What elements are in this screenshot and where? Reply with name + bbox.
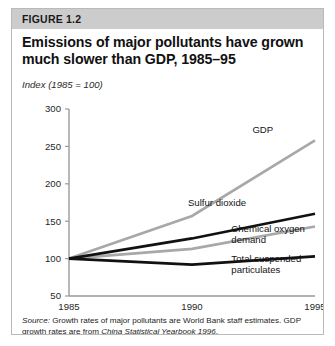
source-publication-title: China Statistical Yearbook 1996 <box>101 327 216 335</box>
y-tick-label: 200 <box>45 178 61 189</box>
figure-title: Emissions of major pollutants have grown… <box>22 34 318 69</box>
line-chart-svg: 50100150200250300 198519901995 GDPSulfur… <box>12 97 324 311</box>
figure-number-label: FIGURE 1.2 <box>22 13 81 25</box>
figure-header-band: FIGURE 1.2 <box>12 9 323 29</box>
source-note: Source: Growth rates of major pollutants… <box>22 316 314 335</box>
x-tick-label: 1995 <box>304 301 324 311</box>
chart-plot-area: 50100150200250300 198519901995 GDPSulfur… <box>12 97 324 311</box>
series-label-sulfur-dioxide: Sulfur dioxide <box>188 197 246 208</box>
series-label-total-suspended-particulates: Total suspendedparticulates <box>231 253 301 275</box>
y-tick-label: 250 <box>45 141 61 152</box>
series-label-chemical-oxygen-demand: Chemical oxygendemand <box>231 223 305 245</box>
series-labels-group: GDPSulfur dioxideChemical oxygendemandTo… <box>188 124 305 275</box>
x-tick-label: 1990 <box>181 301 202 311</box>
y-tick-label: 50 <box>50 290 61 301</box>
figure-container: FIGURE 1.2 Emissions of major pollutants… <box>11 8 324 335</box>
x-tick-label: 1985 <box>58 301 79 311</box>
y-tick-label: 150 <box>45 216 61 227</box>
y-tick-label: 300 <box>45 103 61 114</box>
y-axis-ticks: 50100150200250300 <box>45 103 69 301</box>
x-axis-ticks: 198519901995 <box>58 301 324 311</box>
figure-axis-index-note: Index (1985 = 100) <box>22 79 103 90</box>
source-text-part-2: . <box>216 327 218 335</box>
series-label-gdp: GDP <box>252 124 273 135</box>
source-label: Source: <box>22 316 50 325</box>
y-tick-label: 100 <box>45 253 61 264</box>
